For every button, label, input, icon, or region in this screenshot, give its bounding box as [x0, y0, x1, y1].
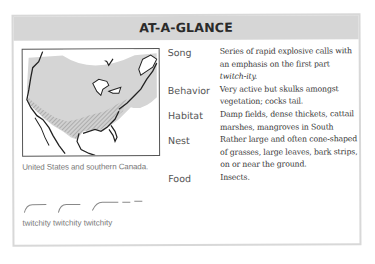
fact-line: vegetation; cocks tail. [220, 96, 358, 109]
fact-value: Rather large and often cone-shaped of gr… [214, 133, 358, 171]
fact-row-song: Song Series of rapid explosive calls wit… [168, 45, 358, 84]
fact-line: an emphasis on the first part [220, 58, 358, 71]
at-a-glance-card: AT-A-GLANCE [11, 13, 361, 247]
fact-row-habitat: Habitat Damp fields, dense thickets, cat… [168, 108, 358, 134]
fact-value: Insects. [214, 171, 358, 184]
fact-label: Song [168, 46, 214, 59]
map-caption: United States and southern Canada. [22, 162, 148, 172]
fact-row-nest: Nest Rather large and often cone-shaped … [168, 133, 358, 172]
fact-line: Rather large and often cone-shaped [220, 133, 358, 146]
range-map-illustration [23, 49, 159, 156]
fact-line: on or near the ground. [220, 159, 358, 172]
fact-label: Food [168, 172, 214, 185]
fact-value: Series of rapid explosive calls with an … [214, 45, 358, 83]
fact-line: Very active but skulks amongst [220, 83, 358, 96]
fact-line: Series of rapid explosive calls with [220, 45, 358, 58]
fact-line: marshes, mangroves in South [220, 121, 358, 134]
fact-line: Insects. [220, 171, 358, 184]
fact-value: Very active but skulks amongst vegetatio… [214, 83, 358, 109]
card-title: AT-A-GLANCE [14, 15, 359, 41]
song-phonetic-label: twitchity twitchity twitchity [22, 218, 112, 227]
fact-label: Habitat [168, 109, 214, 122]
fact-row-behavior: Behavior Very active but skulks amongst … [168, 83, 358, 109]
fact-value: Damp fields, dense thickets, cattail mar… [214, 108, 358, 134]
song-sonogram-icon [22, 194, 162, 217]
fact-label: Nest [168, 134, 214, 147]
fact-line: Damp fields, dense thickets, cattail [220, 108, 358, 121]
fact-row-food: Food Insects. [168, 171, 358, 185]
range-map [22, 48, 160, 157]
fact-label: Behavior [168, 84, 214, 97]
fact-line: of grasses, large leaves, bark strips, [220, 146, 358, 159]
fact-line-italic: twitch-ity. [220, 70, 358, 83]
facts-list: Song Series of rapid explosive calls wit… [168, 45, 359, 185]
